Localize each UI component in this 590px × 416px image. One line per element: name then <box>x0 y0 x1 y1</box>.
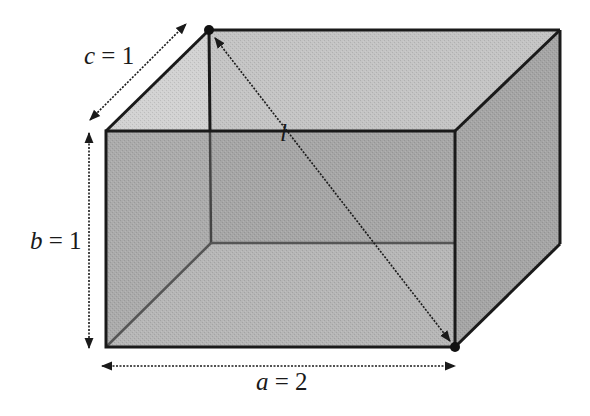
vertex-back-top-left <box>204 25 214 35</box>
label-b: b = 1 <box>30 227 82 254</box>
vertex-front-bottom-right <box>450 342 460 352</box>
label-c: c = 1 <box>84 42 134 69</box>
edge-back-vertical-visible <box>209 30 210 131</box>
box-diagram-svg: c = 1 b = 1 a = 2 l <box>0 0 590 416</box>
texture-overlay <box>106 30 560 347</box>
label-l: l <box>280 119 287 146</box>
label-a: a = 2 <box>256 368 308 395</box>
box-diagram: c = 1 b = 1 a = 2 l <box>0 0 590 416</box>
hidden-edge-vertical <box>210 131 211 243</box>
